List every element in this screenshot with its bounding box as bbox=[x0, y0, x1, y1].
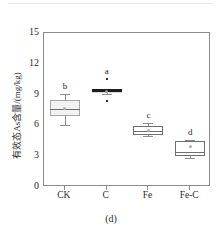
median-line bbox=[175, 152, 205, 153]
y-axis-tick-label: 3 bbox=[13, 150, 39, 160]
plot-area: bacd bbox=[43, 32, 210, 186]
figure-panel-d: 有效态As含量/(mg/kg) 03691215 bacd CKCFeFe-C … bbox=[0, 0, 222, 237]
mean-marker bbox=[147, 129, 150, 132]
whisker-cap-lower bbox=[143, 136, 153, 137]
y-axis-tick-label: 12 bbox=[13, 58, 39, 68]
significance-letter-fe-c: d bbox=[180, 128, 200, 137]
whisker-lower bbox=[65, 116, 66, 125]
outlier-point bbox=[106, 78, 108, 80]
whisker-cap-lower bbox=[60, 125, 70, 126]
figure-caption: (d) bbox=[0, 213, 222, 224]
x-axis-tick-label-c: C bbox=[83, 191, 129, 201]
box-iqr bbox=[175, 141, 205, 156]
x-axis-tick-label-fe-c: Fe-C bbox=[166, 191, 212, 201]
x-axis-tick-label-fe: Fe bbox=[124, 191, 170, 201]
y-axis-tick-label: 6 bbox=[13, 119, 39, 129]
significance-letter-c: a bbox=[97, 67, 117, 76]
y-axis-tick-label: 0 bbox=[13, 181, 39, 191]
x-axis-tick-label-ck: CK bbox=[41, 191, 87, 201]
whisker-cap-lower bbox=[102, 94, 112, 95]
y-axis-tick-label: 15 bbox=[13, 27, 39, 37]
significance-letter-fe: c bbox=[138, 111, 158, 120]
whisker-cap-lower bbox=[185, 158, 195, 159]
whisker-cap-upper bbox=[143, 123, 153, 124]
y-axis-tick-label: 9 bbox=[13, 89, 39, 99]
whisker-cap-upper bbox=[60, 94, 70, 95]
crop-artifact-line bbox=[8, 3, 213, 4]
significance-letter-ck: b bbox=[55, 82, 75, 91]
outlier-point bbox=[106, 100, 108, 102]
